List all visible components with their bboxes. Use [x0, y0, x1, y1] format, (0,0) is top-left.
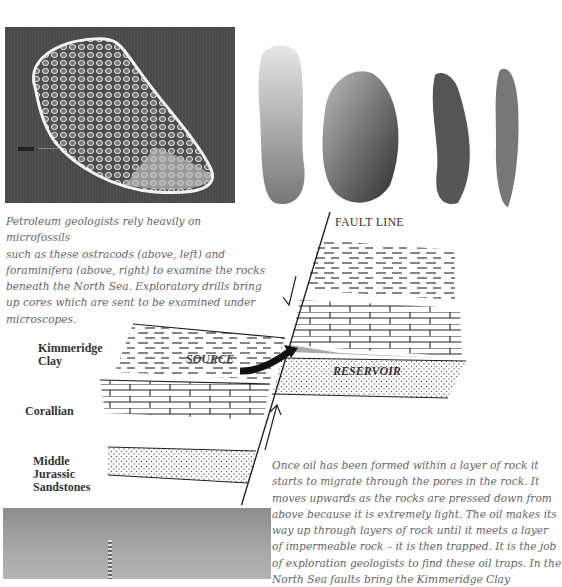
fault-line-label: FAULT LINE	[335, 215, 404, 230]
body-line: starts to migrate through the pores in t…	[272, 473, 562, 489]
body-line: moves upwards as the rocks are pressed d…	[272, 490, 562, 506]
source-label: SOURCE	[186, 352, 234, 367]
scale-line	[38, 148, 60, 149]
layer-label-kimmeridge-clay: Kimmeridge Clay	[38, 342, 103, 368]
scale-bar	[18, 147, 34, 151]
layer-label-corallian: Corallian	[25, 405, 74, 418]
body-line: of impermeable rock – it is then trapped…	[272, 538, 562, 554]
rig-mast	[108, 540, 112, 579]
body-paragraph: Once oil has been formed within a layer …	[272, 457, 562, 587]
body-line: way up through layers of rock until it m…	[272, 522, 562, 538]
body-line: North Sea faults bring the Kimmeridge Cl…	[272, 571, 562, 587]
body-line: of exploration geologists to find these …	[272, 555, 562, 571]
oil-rig-photo	[3, 508, 271, 579]
body-line: Once oil has been formed within a layer …	[272, 457, 562, 473]
reservoir-label: RESERVOIR	[333, 364, 401, 379]
foraminifera-photo	[250, 35, 540, 210]
ostracod-photo	[5, 27, 235, 203]
body-line: above because it is extremely light. The…	[272, 506, 562, 522]
layer-label-middle-jurassic-sandstones: Middle Jurassic Sandstones	[33, 455, 90, 494]
